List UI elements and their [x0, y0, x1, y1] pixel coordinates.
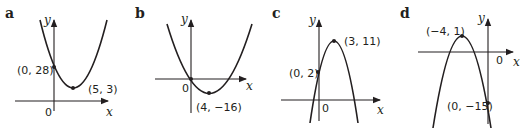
- point-label-vertex: (4, −16): [196, 101, 242, 114]
- point-origin: [189, 77, 193, 81]
- origin-label: 0: [45, 106, 52, 119]
- parabola-graphs: a (0, 28) (5, 3) 0 x y b (4, −16) 0 x y …: [0, 0, 524, 130]
- graph-b: b (4, −16) 0 x y: [135, 5, 253, 114]
- x-axis-label: x: [377, 103, 384, 117]
- point-vertex: [332, 39, 336, 43]
- point-label-y-intercept: (0, −15): [447, 100, 493, 113]
- x-axis-label: x: [246, 79, 253, 93]
- point-label-vertex: (5, 3): [88, 83, 118, 96]
- graph-d: d (−4, 1) (0, −15) 0 x y: [400, 5, 520, 128]
- origin-label: 0: [182, 82, 189, 95]
- point-label-y-intercept: (0, 2): [289, 67, 319, 80]
- parabola-curve: [40, 20, 107, 88]
- point-vertex: [207, 91, 211, 95]
- parabola-curve: [167, 24, 252, 94]
- point-label-vertex: (3, 11): [344, 35, 381, 48]
- x-axis-label: x: [513, 55, 520, 69]
- origin-label: 0: [322, 102, 329, 115]
- parabola-curve: [310, 41, 358, 123]
- y-axis-label: y: [180, 12, 188, 26]
- y-axis-label: y: [43, 13, 51, 27]
- part-label-d: d: [400, 5, 410, 21]
- graph-a: a (0, 28) (5, 3) 0 x y: [5, 5, 118, 119]
- part-label-b: b: [135, 5, 145, 21]
- point-vertex: [71, 86, 75, 90]
- y-axis-label: y: [308, 13, 316, 27]
- part-label-c: c: [272, 5, 281, 21]
- parabola-curve: [433, 36, 491, 128]
- point-label-vertex: (−4, 1): [426, 25, 465, 38]
- part-label-a: a: [5, 5, 14, 21]
- x-axis-label: x: [106, 105, 113, 119]
- origin-label: 0: [496, 54, 503, 67]
- y-axis-label: y: [477, 11, 485, 25]
- point-label-y-intercept: (0, 28): [17, 64, 54, 77]
- graph-c: c (3, 11) (0, 2) 0 x y: [272, 5, 384, 123]
